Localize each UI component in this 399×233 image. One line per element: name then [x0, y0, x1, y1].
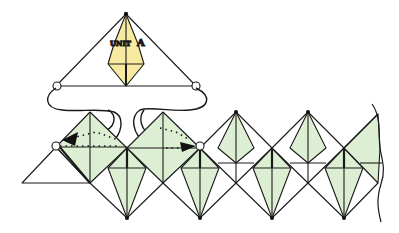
unit-label-letter: A — [136, 37, 145, 48]
chain — [22, 104, 383, 222]
unit-label: UNIT — [110, 39, 132, 48]
unit-a: UNIT A — [53, 12, 200, 90]
origami-diagram: UNIT A — [0, 0, 399, 233]
